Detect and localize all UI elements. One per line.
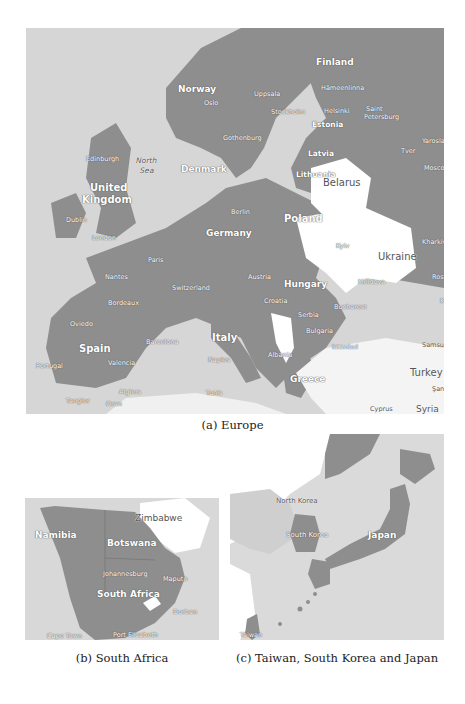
label-tangier: Tangier: [66, 398, 90, 405]
label-nantes: Nantes: [105, 274, 128, 281]
label-italy: Italy: [212, 333, 237, 343]
label-norway: Norway: [178, 85, 216, 94]
label-sanliurfa: Şanlıurfa: [432, 386, 444, 393]
label-latvia: Latvia: [308, 150, 334, 158]
south-africa-map-shapes: [25, 498, 219, 640]
label-uppsala: Uppsala: [254, 91, 280, 98]
label-north-sea-2: Sea: [140, 167, 154, 175]
label-oviedo: Oviedo: [70, 321, 93, 328]
caption-europe: (a) Europe: [0, 418, 465, 432]
map-europe: Finland Norway Oslo Uppsala Stockholm Hä…: [26, 28, 444, 414]
label-algiers: Algiers: [119, 389, 141, 396]
label-barcelona: Barcelona: [146, 339, 178, 346]
label-helsinki: Helsinki: [324, 108, 350, 115]
label-japan: Japan: [368, 531, 396, 540]
label-bucharest: Bucharest: [334, 304, 367, 311]
label-tver: Tver: [401, 148, 416, 155]
label-belarus: Belarus: [323, 178, 361, 188]
label-london: London: [92, 235, 116, 242]
label-namibia: Namibia: [35, 531, 77, 540]
label-serbia: Serbia: [298, 312, 319, 319]
label-south-africa: South Africa: [97, 590, 160, 599]
label-paris: Paris: [148, 257, 163, 264]
label-kyiv: Kyiv: [336, 243, 349, 250]
label-zimbabwe: Zimbabwe: [135, 514, 182, 523]
label-united-kingdom-2: Kingdom: [82, 195, 132, 205]
label-spain: Spain: [79, 344, 111, 354]
label-greece: Greece: [290, 375, 325, 384]
label-berlin: Berlin: [231, 209, 250, 216]
label-saint-petersburg-2: Petersburg: [364, 114, 399, 121]
label-dublin: Dublin: [66, 217, 87, 224]
caption-south-africa: (b) South Africa: [25, 651, 219, 665]
label-krasnodar: Krasnodar: [440, 298, 444, 305]
label-turkey: Turkey: [410, 368, 443, 378]
label-johannesburg: Johannesburg: [103, 571, 148, 578]
label-estonia: Estonia: [312, 121, 343, 129]
label-south-korea: South Korea: [286, 532, 328, 539]
label-rostov: Rostov-on-Don: [432, 274, 444, 281]
label-moldova: Moldova: [358, 279, 385, 286]
label-austria: Austria: [248, 274, 271, 281]
label-albania: Albania: [268, 352, 292, 359]
label-croatia: Croatia: [264, 298, 287, 305]
map-east-asia: North Korea South Korea Japan Taiwan: [230, 434, 444, 640]
map-south-africa: Zimbabwe Namibia Botswana Johannesburg M…: [25, 498, 219, 640]
europe-map-shapes: [26, 28, 444, 414]
label-united-kingdom-1: United: [90, 183, 127, 193]
label-port-elizabeth: Port Elizabeth: [113, 632, 158, 639]
label-stockholm: Stockholm: [271, 109, 305, 116]
label-maputo: Maputo: [163, 576, 187, 583]
label-ukraine: Ukraine: [378, 252, 417, 262]
label-kharkiv: Kharkiv: [422, 239, 444, 246]
label-istanbul: Istanbul: [332, 344, 358, 351]
label-yaroslavl: Yaroslavl: [422, 138, 444, 145]
label-bulgaria: Bulgaria: [306, 328, 333, 335]
east-asia-map-shapes: [230, 434, 444, 640]
label-germany: Germany: [206, 229, 252, 238]
label-taiwan: Taiwan: [240, 632, 262, 639]
label-north-korea: North Korea: [276, 498, 318, 505]
label-samsun: Samsun: [422, 342, 444, 349]
label-north-sea-1: North: [136, 157, 157, 165]
label-bordeaux: Bordeaux: [108, 300, 139, 307]
label-syria: Syria: [416, 405, 439, 414]
label-portugal: Portugal: [36, 363, 63, 370]
label-tunis: Tunis: [206, 390, 222, 397]
label-oran: Oran: [106, 401, 122, 408]
label-hameenlinna: Hämeenlinna: [321, 85, 364, 92]
label-cyprus: Cyprus: [370, 406, 393, 413]
label-cape-town: Cape Town: [47, 633, 82, 640]
label-valencia: Valencia: [108, 360, 135, 367]
label-poland: Poland: [284, 214, 323, 224]
label-moscow: Moscow: [424, 165, 444, 172]
label-edinburgh: Edinburgh: [86, 156, 119, 163]
caption-east-asia: (c) Taiwan, South Korea and Japan: [226, 651, 448, 665]
label-finland: Finland: [316, 58, 354, 67]
label-gothenburg: Gothenburg: [223, 135, 262, 142]
label-naples: Naples: [208, 357, 230, 364]
label-switzerland: Switzerland: [172, 285, 210, 292]
label-denmark: Denmark: [181, 165, 227, 174]
label-botswana: Botswana: [107, 539, 157, 548]
label-oslo: Oslo: [204, 100, 218, 107]
label-durban: Durban: [173, 609, 197, 616]
label-hungary: Hungary: [284, 280, 327, 289]
label-saint-petersburg-1: Saint: [366, 106, 383, 113]
